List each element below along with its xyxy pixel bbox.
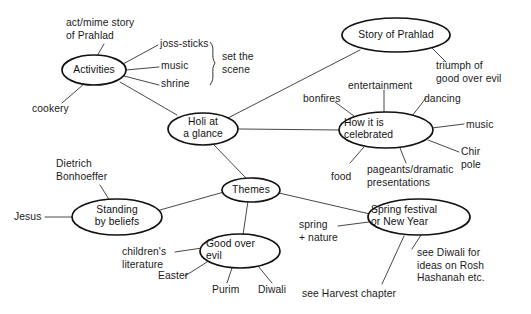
edge-activities-music: [126, 67, 159, 70]
leaf-food: food: [331, 171, 351, 184]
leaf-dancing: dancing: [424, 93, 461, 106]
leaf-music-activities: music: [161, 60, 188, 73]
leaf-purim: Purim: [212, 284, 239, 297]
edge-springfestival-seeharvest: [382, 236, 404, 284]
leaf-chir-pole: Chir pole: [461, 146, 481, 171]
leaf-see-harvest-chapter: see Harvest chapter: [302, 288, 396, 301]
node-label-good-over-evil: Good over evil: [206, 238, 278, 262]
node-label-themes: Themes: [222, 184, 280, 196]
edge-activities-shrine: [124, 76, 159, 85]
edge-goodoverevil-childrensliterature: [175, 248, 202, 252]
edge-themes-standingbybeliefs: [160, 192, 224, 210]
leaf-dietrich-bonhoeffer: Dietrich Bonhoeffer: [56, 158, 107, 183]
mindmap-canvas: Activities Holi at a glance Story of Pra…: [0, 0, 531, 314]
leaf-pageants-dramatic-presentations: pageants/dramatic presentations: [367, 164, 453, 189]
edge-goodoverevil-purim: [227, 268, 232, 283]
leaf-diwali: Diwali: [258, 284, 286, 297]
node-label-standing-by-beliefs: Standing by beliefs: [74, 204, 160, 228]
leaf-bonfires: bonfires: [303, 93, 340, 106]
leaf-childrens-literature: children's literature: [122, 246, 166, 271]
leaf-set-the-scene: set the scene: [222, 51, 254, 76]
edge-holi-howcelebrated: [239, 129, 340, 130]
leaf-see-diwali-rosh-hashanah: see Diwali for ideas on Rosh Hashanah et…: [417, 247, 485, 285]
edge-activities-cookery: [62, 84, 84, 103]
edge-howcelebrated-food: [350, 147, 364, 163]
edge-springfestival-springnature: [338, 222, 369, 226]
leaf-shrine: shrine: [161, 78, 190, 91]
edge-themes-goodoverevil: [243, 201, 248, 235]
edge-goodoverevil-diwali: [258, 266, 272, 283]
leaf-music-celebrated: music: [466, 119, 493, 132]
leaf-entertainment: entertainment: [348, 80, 412, 93]
leaf-easter: Easter: [158, 270, 188, 283]
leaf-spring-nature: spring + nature: [299, 219, 338, 244]
leaf-cookery: cookery: [32, 103, 69, 116]
set-the-scene-brace: [210, 42, 215, 85]
leaf-jesus: Jesus: [14, 211, 41, 224]
node-label-holi-at-a-glance: Holi at a glance: [168, 116, 238, 140]
edge-activities-actmime: [97, 44, 104, 56]
edge-howcelebrated-pageants: [400, 148, 406, 163]
edge-howcelebrated-music: [432, 124, 464, 128]
node-label-activities: Activities: [62, 64, 126, 76]
leaf-act-mime-story: act/mime story of Prahlad: [66, 17, 134, 42]
node-label-story-of-prahlad: Story of Prahlad: [342, 29, 450, 41]
leaf-joss-sticks: joss-sticks: [160, 38, 209, 51]
node-label-spring-festival: Spring festival or New Year: [371, 204, 467, 228]
edge-activities-jossticks: [123, 45, 158, 64]
edge-holi-themes: [214, 145, 246, 178]
leaf-triumph-of-good-over-evil: triumph of good over evil: [436, 60, 502, 85]
edge-howcelebrated-chirpole: [428, 140, 459, 152]
node-label-how-it-is-celebrated: How it is celebrated: [344, 117, 428, 141]
edge-themes-springfestival: [279, 193, 370, 214]
